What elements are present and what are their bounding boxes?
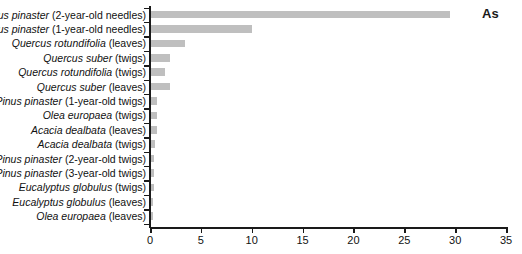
- bar-row: Pinus pinaster (1-year-old twigs): [0, 94, 522, 108]
- x-axis-tick: [303, 227, 305, 233]
- x-axis-tick-label: 25: [384, 234, 424, 246]
- x-axis-tick: [201, 227, 203, 233]
- y-axis-tick: [144, 36, 150, 38]
- y-axis-tick: [144, 80, 150, 82]
- y-axis-tick: [144, 8, 150, 10]
- y-axis-tick: [144, 224, 150, 226]
- bar: [150, 11, 450, 19]
- bar-row: Eucalyptus globulus (leaves): [0, 195, 522, 209]
- category-label: Pinus pinaster (2-year-old needles): [0, 8, 146, 22]
- category-label: Pinus pinaster (2-year-old twigs): [0, 152, 146, 166]
- bar-row: Quercus suber (leaves): [0, 80, 522, 94]
- bar: [150, 54, 170, 62]
- bar-row: Pinus pinaster (3-year-old twigs): [0, 166, 522, 180]
- category-label: Acacia dealbata (leaves): [31, 123, 146, 137]
- x-axis-tick: [353, 227, 355, 233]
- x-axis-tick-label: 15: [283, 234, 323, 246]
- bar: [150, 83, 170, 91]
- plot-area: Pinus pinaster (2-year-old needles)Pinus…: [0, 0, 522, 254]
- x-axis-line: [150, 227, 506, 229]
- category-label: Pinus pinaster (1-year-old needles): [0, 22, 146, 36]
- y-axis-tick: [144, 65, 150, 67]
- category-label: Eucalyptus globulus (leaves): [12, 195, 146, 209]
- category-label: Acacia dealbata (twigs): [37, 137, 146, 151]
- x-axis-tick: [150, 227, 152, 233]
- y-axis-tick: [144, 137, 150, 139]
- bar-row: Olea europaea (leaves): [0, 209, 522, 223]
- bar-row: Eucalyptus globulus (twigs): [0, 180, 522, 194]
- x-axis-tick-label: 35: [486, 234, 522, 246]
- x-axis-tick-label: 10: [232, 234, 272, 246]
- y-axis-tick: [144, 166, 150, 168]
- y-axis-tick: [144, 180, 150, 182]
- category-label: Quercus rotundifolia (leaves): [12, 36, 146, 50]
- bar-row: Pinus pinaster (2-year-old needles): [0, 8, 522, 22]
- y-axis-tick: [144, 108, 150, 110]
- x-axis-tick-label: 30: [435, 234, 475, 246]
- x-axis-tick-label: 5: [181, 234, 221, 246]
- bar: [150, 68, 165, 76]
- bar: [150, 25, 252, 33]
- bar-row: Quercus rotundifolia (leaves): [0, 36, 522, 50]
- x-axis-tick-label: 20: [333, 234, 373, 246]
- category-label: Pinus pinaster (3-year-old twigs): [0, 166, 146, 180]
- bar-row: Quercus suber (twigs): [0, 51, 522, 65]
- bar-row: Pinus pinaster (1-year-old needles): [0, 22, 522, 36]
- y-axis-tick: [144, 152, 150, 154]
- y-axis-tick: [144, 209, 150, 211]
- y-axis-tick: [144, 94, 150, 96]
- bar-row: Acacia dealbata (leaves): [0, 123, 522, 137]
- category-label: Olea europaea (leaves): [36, 209, 146, 223]
- x-axis-tick: [252, 227, 254, 233]
- y-axis-tick: [144, 195, 150, 197]
- y-axis-tick: [144, 22, 150, 24]
- y-axis-tick: [144, 123, 150, 125]
- category-label: Pinus pinaster (1-year-old twigs): [0, 94, 146, 108]
- bar-chart: As Pinus pinaster (2-year-old needles)Pi…: [0, 0, 522, 254]
- x-axis-tick-label: 0: [130, 234, 170, 246]
- x-axis-tick: [506, 227, 508, 233]
- category-label: Quercus suber (twigs): [43, 51, 146, 65]
- bar-row: Quercus rotundifolia (twigs): [0, 65, 522, 79]
- category-label: Eucalyptus globulus (twigs): [19, 180, 146, 194]
- bar-row: Olea europaea (twigs): [0, 108, 522, 122]
- x-axis-tick: [404, 227, 406, 233]
- x-axis-tick: [455, 227, 457, 233]
- y-axis-tick: [144, 51, 150, 53]
- category-label: Olea europaea (twigs): [43, 108, 146, 122]
- category-label: Quercus suber (leaves): [37, 80, 146, 94]
- bar-row: Pinus pinaster (2-year-old twigs): [0, 152, 522, 166]
- bar-row: Acacia dealbata (twigs): [0, 137, 522, 151]
- category-label: Quercus rotundifolia (twigs): [18, 65, 146, 79]
- bar: [150, 40, 185, 48]
